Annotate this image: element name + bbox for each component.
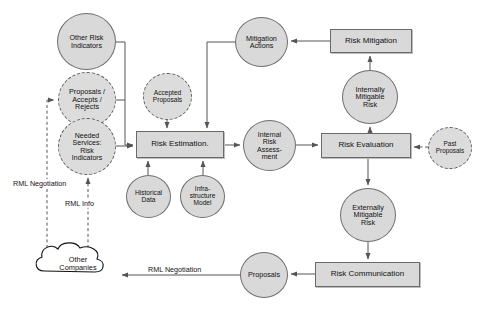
node-proposals[interactable]: Proposals xyxy=(240,252,288,298)
node-mitigation-actions[interactable]: MitigationActions xyxy=(235,17,288,67)
node-label: AcceptedProposals xyxy=(153,90,182,104)
node-label: ExternallyMitigableRisk xyxy=(352,204,384,226)
node-label: MitigationActions xyxy=(246,35,277,50)
node-historical-data[interactable]: HistoricalData xyxy=(126,175,171,218)
node-other-companies[interactable]: OtherCompanies xyxy=(36,256,120,298)
node-label: Proposals /Accepts /Rejects xyxy=(69,88,105,110)
edge-label-rml-negotiation-bottom: RML Negotiation xyxy=(147,265,202,274)
node-past-proposals[interactable]: PastProposals xyxy=(428,127,472,169)
node-other-risk-indicators[interactable]: Other RiskIndicators xyxy=(57,13,116,70)
node-label: InternallyMitigableRisk xyxy=(355,86,384,108)
node-label: Risk Evaluation xyxy=(338,141,393,149)
node-risk-mitigation[interactable]: Risk Mitigation xyxy=(330,29,412,53)
node-internally-mitigable-risk[interactable]: InternallyMitigableRisk xyxy=(342,70,398,124)
node-accepted-proposals[interactable]: AcceptedProposals xyxy=(143,73,192,120)
node-label: Proposals xyxy=(248,271,280,278)
node-label: NeededServices:RiskIndicators xyxy=(72,132,102,161)
node-risk-communication[interactable]: Risk Communication xyxy=(315,262,420,287)
edge-ori-to-risk-estimation xyxy=(116,42,133,145)
node-risk-estimation[interactable]: Risk Estimation. xyxy=(136,131,224,158)
node-label: Risk Estimation. xyxy=(151,140,208,148)
edge-other-companies-to-proposals-accepts-rejects xyxy=(47,100,54,248)
node-risk-evaluation[interactable]: Risk Evaluation xyxy=(321,133,411,158)
node-label: HistoricalData xyxy=(135,190,162,204)
node-label: OtherCompanies xyxy=(59,255,96,272)
edge-label-rml-info: RML Info xyxy=(64,199,95,208)
edge-label-rml-negotiation-left: RML Negotiation xyxy=(12,179,67,188)
node-label: Other RiskIndicators xyxy=(70,34,104,49)
diagram-canvas: Other RiskIndicators Proposals /Accepts … xyxy=(0,0,482,315)
node-label: Risk Mitigation xyxy=(345,37,397,45)
node-needed-services-risk-indicators[interactable]: NeededServices:RiskIndicators xyxy=(58,118,116,175)
node-label: Infra-structureModel xyxy=(190,186,216,206)
node-label: PastProposals xyxy=(436,141,464,154)
node-label: InternalRiskAssess-ment xyxy=(257,131,282,160)
node-internal-risk-assessment[interactable]: InternalRiskAssess-ment xyxy=(243,120,296,171)
node-externally-mitigable-risk[interactable]: ExternallyMitigableRisk xyxy=(340,188,396,242)
node-label: Risk Communication xyxy=(331,270,404,278)
edge-mitigation-actions-to-risk-estimation xyxy=(207,42,235,128)
node-infrastructure-model[interactable]: Infra-structureModel xyxy=(180,175,225,218)
